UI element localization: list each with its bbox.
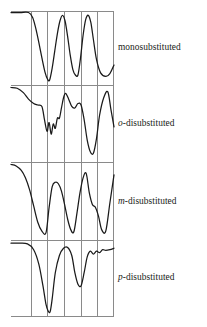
panel-label-prefix: m bbox=[118, 196, 125, 206]
panel-label-text: -disubstituted bbox=[125, 196, 177, 206]
figure-page: monosubstituted o-disubstituted m-disubs… bbox=[0, 0, 207, 327]
chart-frame bbox=[11, 11, 114, 317]
panel-label-text: -disubstituted bbox=[123, 118, 175, 128]
panel-label-monosubstituted: monosubstituted bbox=[118, 42, 181, 52]
panel-label-ortho-disubstituted: o-disubstituted bbox=[118, 118, 175, 128]
spectrum-trace-meta-disubstituted bbox=[11, 165, 114, 235]
panel-label-text: -disubstituted bbox=[123, 272, 175, 282]
spectrum-trace-monosubstituted bbox=[11, 12, 114, 81]
panel-label-para-disubstituted: p-disubstituted bbox=[118, 272, 175, 282]
spectrum-trace-ortho-disubstituted bbox=[11, 88, 114, 155]
panel-label-meta-disubstituted: m-disubstituted bbox=[118, 196, 177, 206]
spectrum-trace-para-disubstituted bbox=[11, 243, 114, 312]
panel-label-text: monosubstituted bbox=[118, 42, 181, 52]
